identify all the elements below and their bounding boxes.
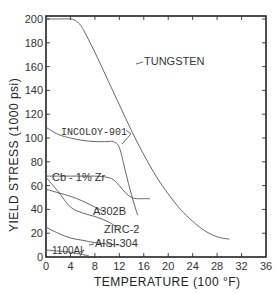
y-tick-label: 40: [31, 203, 43, 215]
y-tick-label: 60: [31, 180, 43, 192]
axis-ticks: 0481216202428323602040608010012014016018…: [25, 13, 272, 272]
y-tick-label: 140: [25, 84, 43, 96]
x-tick-label: 8: [92, 260, 98, 272]
x-tick-label: 16: [138, 260, 150, 272]
x-tick-label: 24: [187, 260, 199, 272]
y-tick-label: 100: [25, 132, 43, 144]
y-tick-label: 160: [25, 61, 43, 73]
x-tick-label: 28: [211, 260, 223, 272]
y-axis-title: YIELD STRESS (1000 psi): [7, 78, 21, 232]
arrow-tungsten: [136, 62, 143, 64]
x-axis-title: TEMPERATURE (100 °F): [94, 275, 241, 289]
y-tick-label: 180: [25, 37, 43, 49]
x-tick-label: 12: [113, 260, 125, 272]
x-tick-label: 36: [260, 260, 272, 272]
y-tick-label: 120: [25, 108, 43, 120]
curve-zirc-2: [46, 177, 119, 228]
label-tungsten: TUNGSTEN: [144, 55, 205, 67]
label-cb-zr: Cb - 1% Zr: [52, 171, 106, 183]
y-tick-label: 80: [31, 156, 43, 168]
label-incoloy: INCOLOY-901: [61, 127, 127, 138]
y-tick-label: 200: [25, 13, 43, 25]
label-a302b: A302B: [93, 205, 126, 217]
label-1100al: 1100Al: [52, 245, 82, 256]
y-tick-label: 0: [37, 251, 43, 263]
y-tick-label: 20: [31, 227, 43, 239]
yield-stress-chart: 0481216202428323602040608010012014016018…: [0, 0, 276, 294]
x-tick-label: 20: [162, 260, 174, 272]
arrow-aisi: [89, 244, 94, 245]
label-aisi-304: AISI-304: [95, 237, 138, 249]
label-zirc-2: ZIRC-2: [104, 223, 139, 235]
x-tick-label: 4: [67, 260, 73, 272]
x-tick-label: 0: [43, 260, 49, 272]
x-tick-label: 32: [235, 260, 247, 272]
